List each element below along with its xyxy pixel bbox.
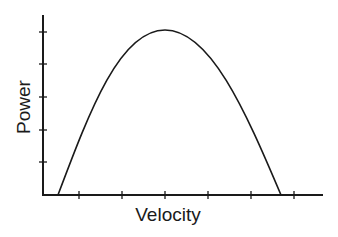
power-velocity-chart: Velocity Power	[0, 0, 338, 237]
x-axis-label: Velocity	[135, 204, 201, 225]
power-curve	[58, 30, 281, 195]
y-axis-label: Power	[13, 79, 34, 134]
